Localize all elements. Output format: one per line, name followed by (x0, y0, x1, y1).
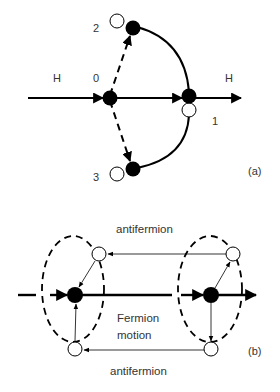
left-top-open-node (92, 247, 106, 261)
node-1-filled (182, 89, 197, 104)
left-bottom-open-node (68, 342, 82, 356)
antifermion-top-label: antifermion (116, 223, 173, 235)
node-3-open (110, 167, 124, 181)
label-node-1: 1 (212, 115, 218, 127)
diagram-canvas: H 0 H 1 2 3 (a) antifermion antife (0, 0, 280, 392)
panel-b: antifermion antifermion Fermion motion (… (18, 223, 261, 377)
panel-a: H 0 H 1 2 3 (a) (28, 14, 261, 183)
left-bottom-to-node-line (75, 304, 76, 341)
dashed-0-3-line (110, 101, 130, 161)
right-top-open-node (226, 247, 240, 261)
label-node-0: 0 (93, 72, 99, 84)
fermion-motion-label-line2: motion (117, 329, 152, 341)
arc-2-1 (137, 27, 189, 92)
node-0-filled (103, 91, 118, 106)
antifermion-bottom-label: antifermion (110, 365, 167, 377)
label-h-in: H (53, 72, 61, 84)
right-node-to-top-line (215, 262, 230, 288)
node-1-open (182, 103, 196, 117)
label-node-2: 2 (93, 22, 99, 34)
node-2-open (110, 14, 124, 28)
fermion-motion-label-line1: Fermion (117, 312, 159, 324)
arc-1-3 (137, 115, 189, 168)
dashed-0-2-line (110, 36, 130, 95)
label-h-out: H (225, 72, 233, 84)
panel-a-tag: (a) (248, 165, 261, 177)
label-node-3: 3 (93, 171, 99, 183)
node-3-filled (126, 162, 141, 177)
left-top-to-node-line (79, 261, 95, 287)
right-bottom-open-node (204, 342, 218, 356)
left-filled-node (67, 287, 83, 303)
right-filled-node (203, 287, 219, 303)
panel-b-tag: (b) (248, 345, 261, 357)
node-2-filled (126, 21, 141, 36)
